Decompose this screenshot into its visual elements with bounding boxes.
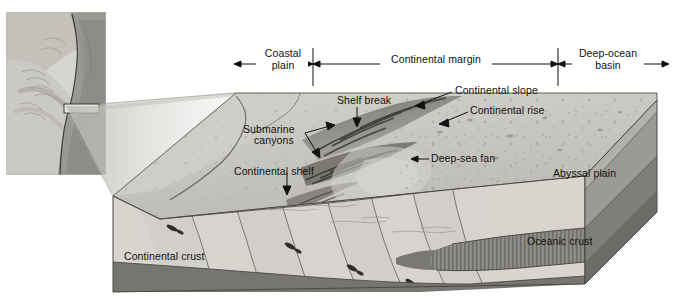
label-continental-crust: Continental crust: [124, 251, 205, 263]
label-continental-slope: Continental slope: [455, 85, 538, 97]
label-continental-shelf: Continental shelf: [234, 166, 314, 178]
label-shelf-break: Shelf break: [337, 95, 391, 107]
block-diagram-svg: [0, 0, 680, 299]
label-submarine-canyons-line2: canyons: [254, 135, 294, 147]
scale-label-deep-ocean-basin: Deep-oceanbasin: [572, 48, 644, 71]
scale-label-continental-margin: Continental margin: [380, 54, 492, 66]
label-continental-rise: Continental rise: [470, 105, 545, 117]
label-abyssal-plain: Abyssal plain: [553, 168, 616, 180]
figure-canvas: Coastalplain Continental margin Deep-oce…: [0, 0, 680, 299]
label-deep-sea-fan: Deep-sea fan: [431, 153, 495, 165]
label-oceanic-crust: Oceanic crust: [527, 236, 593, 248]
scale-label-coastal-plain: Coastalplain: [256, 48, 310, 71]
